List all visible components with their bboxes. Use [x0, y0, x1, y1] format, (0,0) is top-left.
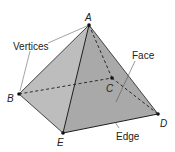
callout-vertices: Vertices [13, 41, 49, 52]
vertex-a-label: A [84, 12, 92, 23]
vertex-b-dot [17, 92, 21, 96]
vertex-b-label: B [7, 93, 14, 104]
vertex-c-dot [110, 76, 114, 80]
vertex-e-label: E [57, 137, 64, 148]
vertex-d-dot [156, 112, 160, 116]
leader-edge [115, 122, 119, 128]
callout-face: Face [132, 50, 155, 61]
vertex-d-label: D [160, 118, 167, 129]
vertex-a-dot [87, 23, 91, 27]
vertex-e-dot [61, 131, 65, 135]
vertex-c-label: C [106, 83, 114, 94]
callout-edge: Edge [116, 131, 140, 142]
pyramid-diagram: A B C D E Vertices Face Edge [0, 0, 175, 152]
